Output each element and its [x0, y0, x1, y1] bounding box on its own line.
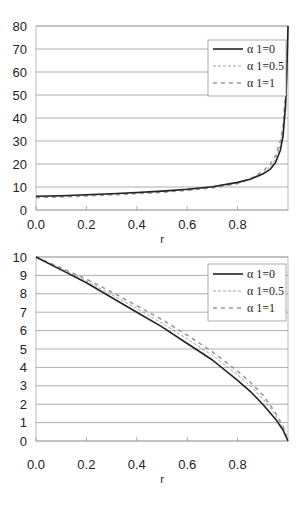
y-tick-label: 0 — [20, 203, 27, 218]
y-tick-label: 9 — [20, 268, 27, 283]
legend: α 1=0 α 1=0.5 α 1=1 — [208, 264, 286, 321]
x-axis-label: r — [160, 233, 164, 245]
y-tick-label: 0 — [20, 434, 27, 449]
legend-label: α 1=0.5 — [247, 284, 284, 298]
legend: α 1=0 α 1=0.5 α 1=1 — [208, 40, 286, 96]
x-tick-label: 0.2 — [77, 217, 95, 232]
x-axis-label: r — [160, 473, 164, 485]
x-tick-label: 0.4 — [128, 457, 146, 472]
y-tick-label: 20 — [13, 157, 27, 172]
legend-label: α 1=0.5 — [247, 59, 284, 73]
x-tick-label: 0.0 — [27, 217, 45, 232]
y-tick-label: 40 — [13, 111, 27, 126]
bottom-chart: 012345678910 0.00.20.40.60.8 r α 1=0 α 1… — [13, 250, 288, 486]
x-tick-label: 0.8 — [229, 217, 247, 232]
y-tick-label: 10 — [13, 180, 27, 195]
x-tick-label: 0.2 — [77, 457, 95, 472]
y-tick-label: 6 — [20, 323, 27, 338]
y-tick-label: 5 — [20, 342, 27, 357]
x-tick-label: 0.6 — [178, 457, 196, 472]
y-axis-ticks: 01020304050607080 — [13, 19, 27, 218]
figure: 01020304050607080 0.00.20.40.60.8 r α 1=… — [0, 0, 304, 505]
y-tick-label: 10 — [13, 250, 27, 265]
legend-label: α 1=0 — [247, 267, 275, 281]
y-tick-label: 8 — [20, 286, 27, 301]
y-tick-label: 7 — [20, 305, 27, 320]
y-tick-label: 4 — [20, 360, 27, 375]
y-tick-label: 2 — [20, 397, 27, 412]
y-tick-label: 30 — [13, 134, 27, 149]
x-tick-label: 0.8 — [229, 457, 247, 472]
y-tick-label: 80 — [13, 19, 27, 34]
legend-label: α 1=1 — [247, 301, 275, 315]
x-axis-ticks: 0.00.20.40.60.8 — [27, 217, 247, 232]
legend-label: α 1=0 — [247, 42, 275, 56]
y-tick-label: 3 — [20, 378, 27, 393]
x-tick-label: 0.4 — [128, 217, 146, 232]
x-axis-ticks: 0.00.20.40.60.8 — [27, 457, 247, 472]
x-tick-label: 0.0 — [27, 457, 45, 472]
y-tick-label: 1 — [20, 415, 27, 430]
y-tick-label: 50 — [13, 88, 27, 103]
top-chart: 01020304050607080 0.00.20.40.60.8 r α 1=… — [13, 19, 288, 246]
y-tick-label: 60 — [13, 65, 27, 80]
legend-label: α 1=1 — [247, 76, 275, 90]
y-tick-label: 70 — [13, 42, 27, 57]
x-tick-label: 0.6 — [178, 217, 196, 232]
y-axis-ticks: 012345678910 — [13, 250, 27, 449]
